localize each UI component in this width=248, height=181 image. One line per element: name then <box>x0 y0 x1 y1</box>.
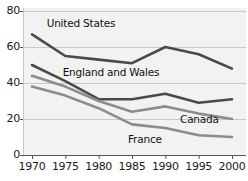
x-tick-label-2000: 2000 <box>215 160 248 173</box>
line-chart: 020406080 1970197519801985199019952000 U… <box>0 0 248 181</box>
series-label-france: France <box>128 133 162 145</box>
series-label-united-states: United States <box>47 17 116 29</box>
x-tick-label-1970: 1970 <box>15 160 49 173</box>
x-tick-label-1995: 1995 <box>182 160 216 173</box>
y-tick-label-40: 40 <box>0 76 20 89</box>
series-label-canada: Canada <box>180 113 219 125</box>
x-tick-label-1985: 1985 <box>115 160 149 173</box>
x-tick-label-1990: 1990 <box>148 160 182 173</box>
x-tick-label-1975: 1975 <box>48 160 82 173</box>
chart-plot-area <box>0 0 248 181</box>
y-tick-label-20: 20 <box>0 112 20 125</box>
y-tick-label-60: 60 <box>0 40 20 53</box>
y-tick-label-80: 80 <box>0 4 20 17</box>
x-tick-label-1980: 1980 <box>82 160 116 173</box>
series-label-england-and-wales: England and Wales <box>63 66 160 78</box>
